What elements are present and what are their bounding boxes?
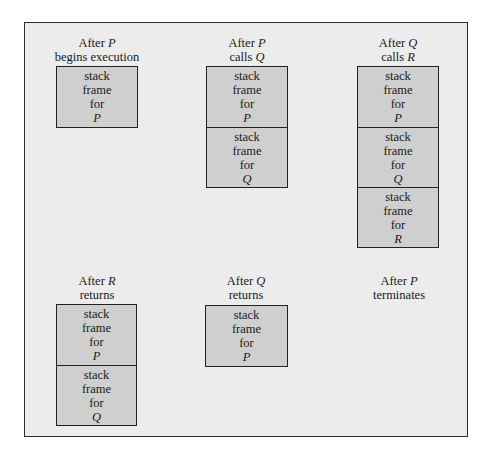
frame-text: for — [358, 158, 438, 172]
caption-text: calls — [229, 50, 252, 64]
frame-text: for — [57, 97, 137, 111]
frame-name: P — [358, 111, 438, 125]
caption-var: P — [108, 36, 116, 50]
call-stack: stack frame for P stack frame for Q — [206, 66, 288, 188]
frame-text: stack — [57, 368, 136, 382]
state-caption: After P begins execution — [42, 36, 152, 64]
call-stack: stack frame for P — [56, 66, 138, 128]
caption-text: After — [227, 274, 253, 288]
frame-text: frame — [57, 382, 136, 396]
caption-text: After — [380, 274, 406, 288]
frame-text: frame — [206, 322, 287, 336]
stack-frame-q: stack frame for Q — [57, 365, 136, 425]
caption-text: begins execution — [55, 50, 139, 64]
caption-var: R — [108, 274, 116, 288]
caption-text: calls — [381, 50, 404, 64]
state-caption: After P terminates — [344, 274, 454, 302]
state-caption: After R returns — [42, 274, 152, 302]
caption-var: R — [407, 50, 415, 64]
frame-text: for — [207, 158, 287, 172]
frame-text: frame — [57, 321, 136, 335]
frame-text: frame — [207, 144, 287, 158]
caption-var: P — [258, 36, 266, 50]
call-stack: stack frame for P — [205, 305, 288, 367]
caption-var: P — [410, 274, 418, 288]
frame-text: for — [207, 97, 287, 111]
stack-frame-p: stack frame for P — [207, 67, 287, 127]
frame-name: Q — [57, 410, 136, 424]
caption-text: After — [78, 274, 104, 288]
frame-text: stack — [57, 69, 137, 83]
caption-var: Q — [256, 274, 265, 288]
frame-text: stack — [358, 130, 438, 144]
state-caption: After Q returns — [191, 274, 301, 302]
call-stack: stack frame for P stack frame for Q — [56, 304, 137, 426]
frame-text: stack — [358, 69, 438, 83]
caption-var: Q — [408, 36, 417, 50]
frame-name: P — [57, 349, 136, 363]
frame-name: P — [206, 350, 287, 364]
caption-var: Q — [256, 50, 265, 64]
frame-text: for — [358, 218, 438, 232]
caption-text: returns — [80, 288, 115, 302]
frame-text: for — [358, 97, 438, 111]
frame-name: Q — [358, 172, 438, 186]
frame-text: for — [57, 335, 136, 349]
frame-text: frame — [207, 83, 287, 97]
call-stack: stack frame for P stack frame for Q stac… — [357, 66, 439, 248]
caption-text: returns — [229, 288, 264, 302]
frame-text: stack — [207, 69, 287, 83]
stack-frame-q: stack frame for Q — [358, 127, 438, 187]
frame-text: stack — [207, 130, 287, 144]
caption-text: After — [78, 36, 104, 50]
stack-frame-p: stack frame for P — [358, 67, 438, 127]
caption-text: After — [379, 36, 405, 50]
frame-text: stack — [206, 308, 287, 322]
frame-text: stack — [57, 307, 136, 321]
frame-name: P — [57, 111, 137, 125]
caption-text: terminates — [373, 288, 425, 302]
frame-name: R — [358, 232, 438, 246]
frame-text: stack — [358, 190, 438, 204]
stack-frame-p: stack frame for P — [206, 306, 287, 366]
frame-name: P — [207, 111, 287, 125]
frame-text: frame — [358, 83, 438, 97]
frame-text: frame — [358, 204, 438, 218]
state-caption: After Q calls R — [343, 36, 453, 64]
frame-text: frame — [358, 144, 438, 158]
frame-text: for — [206, 336, 287, 350]
frame-text: for — [57, 396, 136, 410]
stack-frame-r: stack frame for R — [358, 187, 438, 247]
caption-text: After — [228, 36, 254, 50]
stack-frame-p: stack frame for P — [57, 305, 136, 365]
state-caption: After P calls Q — [192, 36, 302, 64]
stack-frame-p: stack frame for P — [57, 67, 137, 127]
frame-name: Q — [207, 172, 287, 186]
stack-frame-q: stack frame for Q — [207, 127, 287, 187]
frame-text: frame — [57, 83, 137, 97]
